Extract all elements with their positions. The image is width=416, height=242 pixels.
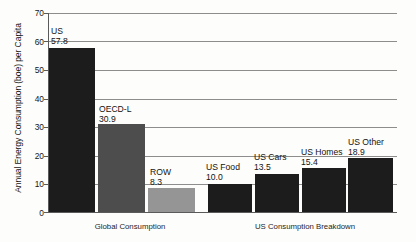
y-tick-30: 30 — [4, 123, 44, 131]
bar-label-value: 57.8 — [51, 36, 68, 46]
bar-us[interactable] — [49, 48, 95, 212]
bar-label-us-homes: US Homes 15.4 — [301, 147, 343, 168]
bar-label-value: 15.4 — [301, 157, 343, 167]
bar-label-name: US Homes — [301, 147, 343, 157]
bar-label-name: OECD-L — [99, 104, 131, 114]
y-tick-40: 40 — [4, 95, 44, 103]
bar-label-row: ROW 8.3 — [150, 167, 171, 188]
y-tick-70: 70 — [4, 9, 44, 17]
bar-label-name: US — [51, 26, 68, 36]
y-tick-20: 20 — [4, 152, 44, 160]
y-tick-60: 60 — [4, 38, 44, 46]
bar-us-other[interactable] — [348, 158, 393, 212]
bar-label-us: US 57.8 — [51, 26, 68, 47]
bar-label-value: 30.9 — [99, 114, 131, 124]
group-label-global-consumption: Global Consumption — [60, 222, 200, 231]
bar-label-name: ROW — [150, 167, 171, 177]
bar-chart: Annual Energy Consumption (boe) per Capi… — [0, 0, 416, 242]
bar-label-name: US Other — [348, 137, 384, 147]
bar-label-value: 18.9 — [348, 147, 384, 157]
bar-oecd-l[interactable] — [98, 124, 145, 212]
bar-label-oecd-l: OECD-L 30.9 — [99, 104, 131, 125]
bar-label-value: 13.5 — [254, 162, 286, 172]
bar-label-name: US Food — [206, 162, 240, 172]
bar-row[interactable] — [148, 188, 195, 212]
y-axis-ticks: 70 60 50 40 30 20 10 0 — [0, 0, 44, 242]
x-axis-line — [48, 212, 397, 213]
bar-label-us-cars: US Cars 13.5 — [254, 152, 286, 173]
bar-label-name: US Cars — [254, 152, 286, 162]
bar-label-us-food: US Food 10.0 — [206, 162, 240, 183]
bar-label-value: 8.3 — [150, 177, 171, 187]
group-label-us-consumption-breakdown: US Consumption Breakdown — [215, 222, 395, 231]
y-tick-10: 10 — [4, 180, 44, 188]
bar-label-us-other: US Other 18.9 — [348, 137, 384, 158]
bar-us-homes[interactable] — [302, 168, 346, 212]
bar-us-food[interactable] — [208, 184, 252, 212]
bar-us-cars[interactable] — [255, 174, 299, 212]
y-tick-0: 0 — [4, 209, 44, 217]
y-tick-50: 50 — [4, 66, 44, 74]
bar-label-value: 10.0 — [206, 172, 240, 182]
